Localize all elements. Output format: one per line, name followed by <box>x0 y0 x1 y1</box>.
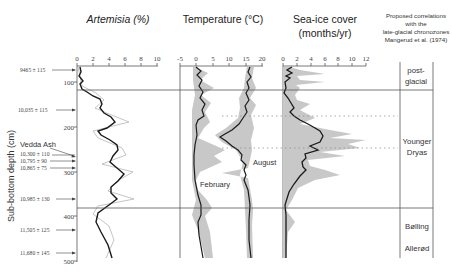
corr-title-1: Proposed correlations <box>386 12 446 19</box>
svg-text:15: 15 <box>243 55 251 63</box>
svg-text:10: 10 <box>154 55 162 63</box>
seaice-range <box>283 67 366 258</box>
august-range <box>215 67 256 258</box>
svg-text:10,985 ± 130: 10,985 ± 130 <box>20 196 50 202</box>
svg-text:0: 0 <box>194 55 198 63</box>
radiocarbon-dates: 9465 ± 115 10,035 ± 115 Vedda Ash 10,300… <box>18 67 76 256</box>
zone-postglacial-2: glacial <box>405 77 427 86</box>
svg-text:5: 5 <box>211 55 215 63</box>
svg-text:12: 12 <box>363 55 371 63</box>
august-label: August <box>253 158 277 167</box>
svg-text:-5: -5 <box>177 55 183 63</box>
artemisia-raw-curve <box>78 67 134 258</box>
corr-title-2: with the <box>404 20 427 27</box>
svg-text:0: 0 <box>281 55 285 63</box>
y-axis-label: Sub-bottom depth (cm) <box>6 130 16 222</box>
svg-text:8: 8 <box>139 55 143 63</box>
svg-text:10: 10 <box>349 55 357 63</box>
svg-text:100: 100 <box>64 79 75 87</box>
svg-text:500: 500 <box>64 258 75 266</box>
svg-text:10,795 ± 90: 10,795 ± 90 <box>20 158 47 164</box>
corr-title-3: late-glacial chronozones <box>383 28 450 35</box>
vedda-ash-label: Vedda Ash <box>20 140 56 149</box>
zone-younger-dryas-2: Dryas <box>407 148 427 157</box>
artemisia-ticks: 0 2 4 6 8 10 <box>75 55 161 63</box>
svg-text:11,680 ± 145: 11,680 ± 145 <box>20 250 50 256</box>
seaice-title-1: Sea-ice cover <box>293 13 358 25</box>
svg-text:4: 4 <box>309 55 313 63</box>
seaice-ticks: 0 2 4 6 8 10 12 <box>281 55 370 63</box>
svg-text:8: 8 <box>336 55 340 63</box>
temperature-title: Temperature (°C) <box>183 13 264 25</box>
artemisia-axis <box>74 63 158 262</box>
zone-postglacial-1: post- <box>407 66 425 75</box>
february-label: February <box>200 180 230 189</box>
svg-text:20: 20 <box>259 55 267 63</box>
depth-ticks: 100 200 300 400 500 <box>64 79 75 266</box>
svg-text:6: 6 <box>323 55 327 63</box>
svg-text:10,035 ± 115: 10,035 ± 115 <box>18 107 48 113</box>
february-range <box>192 67 225 258</box>
svg-text:0: 0 <box>75 55 79 63</box>
svg-text:10: 10 <box>226 55 234 63</box>
svg-text:200: 200 <box>64 124 75 132</box>
svg-text:400: 400 <box>64 213 75 221</box>
svg-text:6: 6 <box>123 55 127 63</box>
svg-text:10,865 ± 75: 10,865 ± 75 <box>20 165 47 171</box>
paleo-chart: Artemisia (%) Temperature (°C) Sea-ice c… <box>0 0 452 272</box>
svg-text:11,505 ± 125: 11,505 ± 125 <box>20 227 50 233</box>
zone-allerod: Allerød <box>405 244 430 253</box>
temperature-ticks: -5 0 5 10 15 20 <box>177 55 266 63</box>
svg-text:300: 300 <box>64 169 75 177</box>
zone-younger-dryas-1: Younger <box>403 137 432 146</box>
corr-title-4: Mangerud et al. (1974) <box>385 36 448 43</box>
artemisia-title: Artemisia (%) <box>85 13 149 25</box>
svg-text:10,300 ± 110: 10,300 ± 110 <box>20 151 50 157</box>
zone-bolling: Bølling <box>405 222 429 231</box>
svg-text:2: 2 <box>295 55 299 63</box>
svg-text:9465 ± 115: 9465 ± 115 <box>20 67 45 73</box>
artemisia-smoothed-curve <box>79 67 124 258</box>
svg-text:2: 2 <box>91 55 95 63</box>
seaice-title-2: (months/yr) <box>298 27 351 39</box>
svg-text:4: 4 <box>107 55 111 63</box>
